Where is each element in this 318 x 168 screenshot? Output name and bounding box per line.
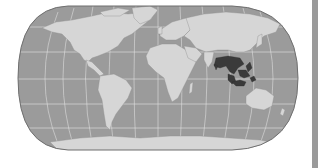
side-scroll-bar [312,0,318,168]
world-map-svg [0,0,318,168]
world-map: World map highlighting Southeast Asia [0,0,318,168]
